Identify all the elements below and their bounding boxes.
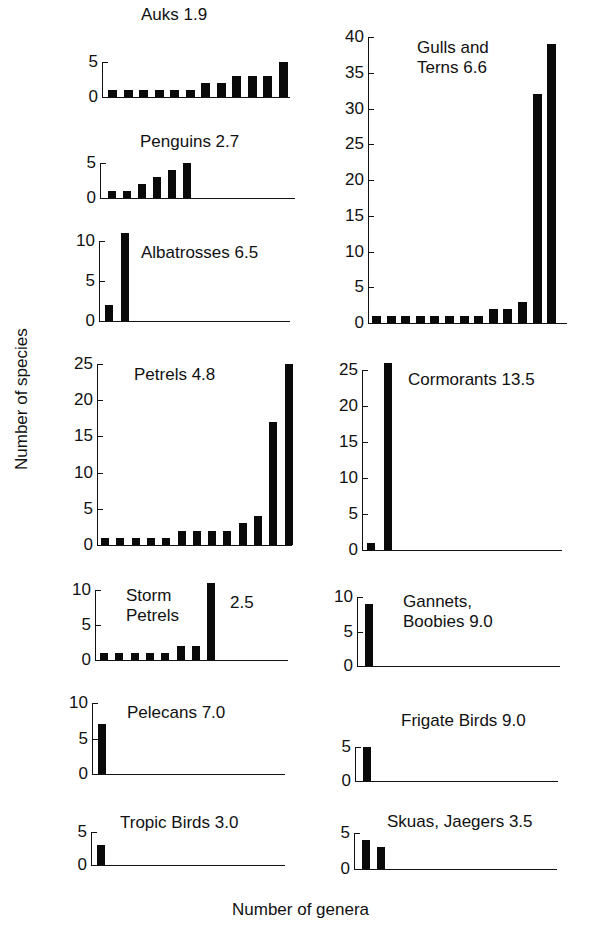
bar [155, 90, 164, 97]
bar [108, 191, 116, 198]
y-tick-label: 5 [64, 154, 96, 171]
bar [372, 316, 381, 323]
x-axis-line [354, 869, 557, 870]
y-tick [368, 287, 374, 288]
bar [489, 309, 498, 323]
x-axis-line [97, 545, 292, 546]
y-tick-label: 0 [321, 657, 353, 674]
y-tick-label: 25 [61, 355, 93, 372]
y-tick-label: 0 [59, 651, 91, 668]
panel-title: Gulls and Terns 6.6 [417, 38, 489, 78]
y-tick-label: 0 [332, 314, 364, 331]
y-tick-label: 0 [64, 189, 96, 206]
panel-title: Skuas, Jaegers 3.5 [387, 812, 533, 832]
x-axis-line [92, 774, 285, 775]
x-axis-line [95, 660, 288, 661]
bar [248, 76, 257, 97]
y-tick-label: 0 [63, 312, 95, 329]
y-axis-label: Number of species [12, 328, 32, 470]
bar [547, 44, 556, 323]
bar [147, 538, 155, 545]
y-tick-label: 5 [59, 616, 91, 633]
x-axis-line [91, 865, 285, 866]
panel-title: Pelecans 7.0 [127, 703, 225, 723]
x-axis-line [355, 781, 558, 782]
y-tick [97, 400, 103, 401]
y-tick-label: 5 [66, 53, 98, 70]
bar [232, 76, 241, 97]
y-tick-label: 15 [332, 207, 364, 224]
bar [503, 309, 512, 323]
bar [108, 90, 117, 97]
x-axis-line [100, 198, 295, 199]
bar [186, 90, 195, 97]
x-axis-line [368, 323, 567, 324]
y-tick [95, 590, 101, 591]
y-tick [97, 436, 103, 437]
y-tick [95, 625, 101, 626]
y-tick-label: 10 [332, 243, 364, 260]
y-tick [362, 370, 368, 371]
bar [263, 76, 272, 97]
bar [285, 364, 293, 545]
y-tick-label: 0 [61, 536, 93, 553]
x-axis-line [362, 550, 562, 551]
bar [124, 90, 133, 97]
bar [123, 191, 131, 198]
y-tick-label: 5 [326, 505, 358, 522]
x-axis-line [102, 97, 290, 98]
bar [115, 653, 123, 660]
x-axis-label: Number of genera [232, 900, 369, 920]
panel-title: Cormorants 13.5 [408, 370, 535, 390]
y-tick [92, 703, 98, 704]
panel-title: Auks 1.9 [141, 5, 207, 25]
y-axis-line [102, 62, 103, 97]
bar [201, 83, 210, 97]
y-tick [91, 832, 97, 833]
bar [460, 316, 469, 323]
y-tick-label: 5 [332, 278, 364, 295]
bar [254, 516, 262, 545]
y-tick-label: 0 [318, 860, 350, 877]
y-tick [362, 478, 368, 479]
y-tick-label: 0 [319, 772, 351, 789]
bar [223, 531, 231, 545]
x-axis-line [99, 321, 290, 322]
bar [121, 233, 129, 321]
bar [131, 653, 139, 660]
bar [139, 90, 148, 97]
bar [401, 316, 410, 323]
y-axis-line [97, 364, 98, 545]
bar [161, 653, 169, 660]
y-tick [97, 509, 103, 510]
bar [162, 538, 170, 545]
y-tick-label: 0 [326, 541, 358, 558]
bar [474, 316, 483, 323]
y-tick [357, 597, 363, 598]
bar [362, 840, 370, 869]
bar [146, 653, 154, 660]
bar [98, 724, 106, 774]
bar [367, 543, 375, 550]
y-tick [362, 514, 368, 515]
y-axis-line [355, 747, 356, 781]
y-tick-label: 20 [61, 391, 93, 408]
y-tick-label: 40 [332, 28, 364, 45]
y-tick [368, 73, 374, 74]
y-tick-label: 10 [59, 581, 91, 598]
y-tick [354, 833, 360, 834]
y-axis-line [100, 163, 101, 198]
y-tick [357, 632, 363, 633]
bar [365, 604, 373, 666]
y-tick-label: 25 [326, 361, 358, 378]
bar [363, 747, 371, 781]
bar [97, 845, 105, 865]
y-tick [362, 406, 368, 407]
bar [387, 316, 396, 323]
y-tick-label: 5 [319, 738, 351, 755]
bar [384, 363, 392, 550]
y-tick-label: 0 [55, 856, 87, 873]
y-tick [368, 252, 374, 253]
y-tick-label: 25 [332, 135, 364, 152]
panel-title: Albatrosses 6.5 [141, 243, 258, 263]
